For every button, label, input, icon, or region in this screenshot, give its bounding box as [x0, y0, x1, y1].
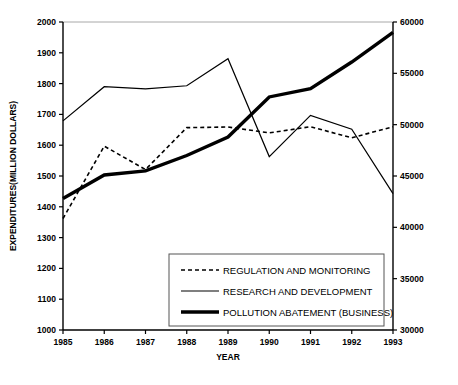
data-series [63, 32, 393, 218]
legend-item-label: POLLUTION ABATEMENT (BUSINESS) [223, 307, 393, 318]
legend-item-label: REGULATION AND MONITORING [223, 265, 370, 276]
x-axis: 198519861987198819891990199119921993YEAR [54, 330, 403, 362]
left-axis-tick-label: 1100 [38, 294, 57, 304]
left-axis-tick-label: 1300 [37, 233, 56, 243]
chart-container: 1000110012001300140015001600170018001900… [0, 0, 458, 385]
right-axis-tick-label: 55000 [400, 68, 424, 78]
y-axis-title-group: EXPENDITURES(MILLION DOLLARS) [8, 101, 18, 251]
line-chart: 1000110012001300140015001600170018001900… [0, 0, 458, 385]
y-axis-title: EXPENDITURES(MILLION DOLLARS) [8, 101, 18, 251]
x-axis-tick-label: 1986 [95, 337, 114, 347]
right-axis-tick-label: 50000 [400, 120, 424, 130]
right-axis: 30000350004000045000500005500060000 [393, 17, 424, 335]
left-axis-tick-label: 2000 [37, 17, 56, 27]
left-axis-tick-label: 1500 [37, 171, 56, 181]
left-axis: 1000110012001300140015001600170018001900… [37, 17, 63, 335]
left-axis-tick-label: 1900 [37, 48, 56, 58]
legend-item-label: RESEARCH AND DEVELOPMENT [223, 286, 373, 297]
x-axis-tick-label: 1990 [260, 337, 279, 347]
right-axis-tick-label: 35000 [400, 274, 424, 284]
right-axis-tick-label: 60000 [400, 17, 424, 27]
x-axis-title: YEAR [216, 352, 240, 362]
x-axis-tick-label: 1993 [384, 337, 403, 347]
left-axis-tick-label: 1000 [37, 325, 56, 335]
x-axis-tick-label: 1989 [219, 337, 238, 347]
left-axis-tick-label: 1700 [37, 109, 56, 119]
legend: REGULATION AND MONITORINGRESEARCH AND DE… [169, 254, 393, 326]
x-axis-tick-label: 1987 [136, 337, 155, 347]
right-axis-tick-label: 40000 [400, 222, 424, 232]
x-axis-tick-label: 1985 [54, 337, 73, 347]
x-axis-tick-label: 1991 [301, 337, 320, 347]
left-axis-tick-label: 1600 [37, 140, 56, 150]
series-line-2 [63, 32, 393, 198]
right-axis-tick-label: 30000 [400, 325, 424, 335]
left-axis-tick-label: 1800 [37, 79, 56, 89]
left-axis-tick-label: 1200 [37, 263, 56, 273]
x-axis-tick-label: 1992 [342, 337, 361, 347]
left-axis-tick-label: 1400 [37, 202, 56, 212]
right-axis-tick-label: 45000 [400, 171, 424, 181]
x-axis-tick-label: 1988 [177, 337, 196, 347]
